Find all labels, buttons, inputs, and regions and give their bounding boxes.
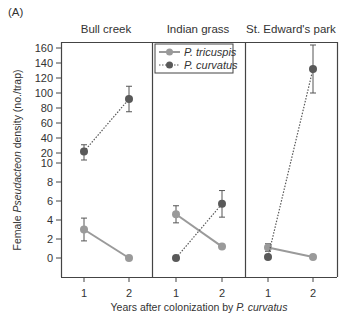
- legend-label-tricuspis: P. tricuspis: [184, 46, 237, 58]
- y-tick-label: 80: [41, 102, 53, 114]
- legend: P. tricuspis P. curvatus: [155, 44, 238, 73]
- y-tick-label: 0: [47, 252, 53, 264]
- series-line: [268, 248, 313, 257]
- data-point: [218, 243, 226, 251]
- series-line: [268, 69, 313, 257]
- x-axis-title: Years after colonization by P. curvatus: [111, 301, 289, 313]
- data-point: [309, 253, 317, 261]
- x-tick-label: 1: [173, 287, 179, 299]
- x-tick-label: 2: [126, 287, 132, 299]
- data-point: [80, 148, 88, 156]
- data-point: [309, 65, 317, 73]
- data-point: [264, 253, 272, 261]
- x-axis: 121212: [81, 277, 316, 299]
- data-point: [125, 95, 133, 103]
- y-axis-title: Female Pseudacteon density (no./trap): [11, 70, 23, 251]
- legend-marker-tricuspis: [166, 49, 173, 56]
- data-point: [80, 226, 88, 234]
- y-tick-label: 20: [41, 147, 53, 159]
- data-point: [125, 254, 133, 262]
- panel-title-st-edwards-park: St. Edward's park: [246, 23, 336, 35]
- series-line: [84, 99, 129, 152]
- series-line: [176, 214, 222, 246]
- y-tick-label: 6: [47, 195, 53, 207]
- x-tick-label: 1: [81, 287, 87, 299]
- panel-title-indian-grass: Indian grass: [167, 23, 230, 35]
- panel-2: [264, 45, 317, 261]
- y-tick-label: 140: [35, 57, 53, 69]
- y-axis: 024681020406080100120140160: [35, 42, 61, 264]
- y-tick-label: 2: [47, 233, 53, 245]
- x-tick-label: 2: [310, 287, 316, 299]
- y-tick-label: 60: [41, 117, 53, 129]
- y-tick-label: 120: [35, 72, 53, 84]
- y-tick-label: 40: [41, 132, 53, 144]
- data-point: [172, 210, 180, 218]
- data-point: [218, 200, 226, 208]
- panel-tag: (A): [8, 6, 24, 18]
- series-layer: [80, 45, 317, 262]
- panel-1: [172, 191, 226, 262]
- x-tick-label: 1: [265, 287, 271, 299]
- panel-title-bull-creek: Bull creek: [81, 23, 132, 35]
- panel-0: [80, 86, 133, 262]
- y-tick-label: 160: [35, 42, 53, 54]
- chart: (A) Bull creek Indian grass St. Edward's…: [0, 0, 347, 327]
- y-tick-label: 4: [47, 214, 53, 226]
- y-tick-label: 100: [35, 87, 53, 99]
- x-tick-label: 2: [219, 287, 225, 299]
- y-tick-label: 8: [47, 176, 53, 188]
- legend-label-curvatus: P. curvatus: [184, 59, 238, 71]
- series-line: [84, 230, 129, 259]
- data-point: [172, 254, 180, 262]
- legend-marker-curvatus: [166, 62, 173, 69]
